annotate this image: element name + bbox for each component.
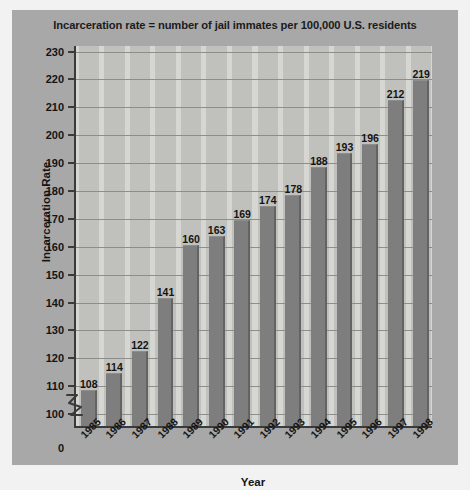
chart-screenshot: Incarceration rate = number of jail imma… — [0, 0, 470, 490]
y-tick-mark — [68, 51, 74, 53]
bar-value-label: 114 — [97, 361, 131, 373]
bar[interactable] — [285, 195, 301, 426]
bar-value-label: 122 — [123, 339, 157, 351]
y-tick-label: 230 — [46, 46, 64, 58]
bar-value-label: 212 — [379, 88, 413, 100]
y-tick-label: 0 — [58, 442, 64, 454]
y-tick-mark — [68, 329, 74, 331]
bar-value-label: 108 — [72, 378, 106, 390]
axis-break-icon — [64, 393, 86, 419]
y-tick-mark — [68, 302, 74, 304]
bar-value-label: 169 — [225, 208, 259, 220]
bar[interactable] — [158, 298, 174, 426]
y-tick-mark — [68, 106, 74, 108]
y-tick-mark — [68, 246, 74, 248]
bar-series: 1081141221411601631691741781881931962122… — [76, 46, 432, 426]
bar-value-label: 141 — [149, 286, 183, 298]
y-tick-label: 200 — [46, 129, 64, 141]
bar[interactable] — [260, 206, 276, 426]
y-tick-label: 210 — [46, 101, 64, 113]
y-tick-mark — [68, 162, 74, 164]
bar[interactable] — [337, 153, 353, 426]
y-tick-label: 130 — [46, 324, 64, 336]
plot-area: 1081141221411601631691741781881931962122… — [74, 46, 432, 428]
bar-value-label: 163 — [200, 224, 234, 236]
bar-value-label: 188 — [302, 155, 336, 167]
bar-value-label: 196 — [353, 132, 387, 144]
y-tick-label: 220 — [46, 73, 64, 85]
y-tick-mark — [68, 190, 74, 192]
y-tick-mark — [68, 78, 74, 80]
x-axis: 1985198619871988198919901991199219931994… — [74, 428, 432, 478]
bar[interactable] — [413, 80, 429, 426]
chart-panel: Incarceration rate = number of jail imma… — [12, 10, 458, 465]
bar[interactable] — [362, 144, 378, 426]
y-tick-label: 120 — [46, 352, 64, 364]
bar-value-label: 174 — [251, 194, 285, 206]
y-tick-mark — [68, 357, 74, 359]
y-tick-mark — [68, 218, 74, 220]
y-tick-label: 100 — [46, 408, 64, 420]
bar[interactable] — [183, 245, 199, 426]
chart-title: Incarceration rate = number of jail imma… — [12, 19, 458, 31]
y-axis-title: Incarceration Rate — [40, 142, 52, 282]
y-tick-mark — [68, 134, 74, 136]
y-tick-label: 140 — [46, 297, 64, 309]
x-axis-title: Year — [74, 476, 432, 488]
y-tick-mark — [68, 385, 74, 387]
y-tick-mark — [68, 274, 74, 276]
bar[interactable] — [234, 220, 250, 426]
bar-value-label: 178 — [276, 183, 310, 195]
bar[interactable] — [209, 236, 225, 426]
bar[interactable] — [311, 167, 327, 426]
bar[interactable] — [388, 100, 404, 426]
bar-value-label: 219 — [404, 68, 438, 80]
y-tick-label: 110 — [46, 380, 64, 392]
